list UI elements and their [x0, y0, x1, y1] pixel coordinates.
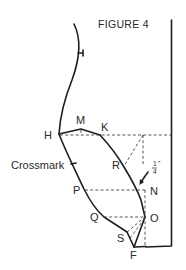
label-q: Q: [90, 211, 99, 223]
curve-h-p-q-s-f: [59, 134, 134, 247]
label-fraction-unit: ": [158, 160, 161, 167]
label-h: H: [44, 129, 52, 141]
figure-title: FIGURE 4: [98, 18, 149, 30]
dash-vertical: [143, 135, 145, 246]
curve-k-r-n-o: [100, 135, 145, 217]
pattern-diagram: FIGURE 4 H M K Crossmark R 1 4 " N P O Q…: [0, 0, 186, 270]
arrow-line: [141, 172, 148, 182]
label-s: S: [117, 232, 124, 244]
label-crossmark: Crossmark: [11, 159, 65, 171]
line-h-m-k: [59, 129, 100, 135]
label-n: N: [150, 185, 158, 197]
label-fraction-den: 4: [153, 168, 157, 175]
crossmark-tick: [71, 163, 76, 164]
label-k: K: [101, 121, 109, 133]
label-o: O: [150, 212, 159, 224]
label-r: R: [112, 159, 120, 171]
label-m: M: [76, 114, 85, 126]
label-fraction-num: 1: [153, 160, 157, 167]
label-p: P: [73, 184, 80, 196]
dash-corner-r: [124, 135, 143, 166]
label-f: F: [130, 249, 137, 261]
line-f-bottom: [134, 247, 146, 248]
